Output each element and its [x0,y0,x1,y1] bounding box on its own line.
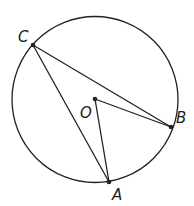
point-O [93,97,98,102]
label-O: O [80,104,92,122]
point-B [169,125,174,130]
point-A [107,180,112,185]
label-C: C [18,28,29,46]
segment-OB [95,99,171,127]
label-B: B [176,109,186,127]
point-C [31,43,36,48]
segment-CB [33,45,171,127]
circle-diagram: C O B A [0,0,194,206]
label-A: A [111,186,122,204]
